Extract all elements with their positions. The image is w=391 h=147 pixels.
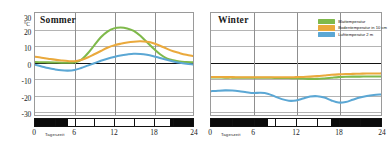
legend-swatch-orange (318, 25, 335, 30)
strip-tick-15 (134, 119, 135, 126)
panel-title-sommer: Sommer (40, 15, 76, 25)
y-tick-0: 0 (27, 62, 31, 70)
x-tick-18: 18 (150, 129, 158, 137)
strip-tick-9 (275, 119, 276, 126)
y-tick-minus20: -20 (22, 95, 31, 103)
strip-tick-18 (339, 119, 340, 126)
daynight-segment-night (35, 119, 68, 126)
x-tick-12: 12 (110, 129, 118, 137)
x-tick-6: 6 (72, 129, 76, 137)
y-tick-10: 10 (24, 45, 31, 53)
daynight-segment-day (268, 119, 332, 126)
strip-tick-15 (317, 119, 318, 126)
y-axis-labels: 30 °C 20 10 0 -10 -20 -30 (0, 0, 33, 147)
y-axis-unit: °C (24, 22, 30, 28)
daynight-strip-sommer (34, 118, 194, 127)
strip-tick-3 (232, 119, 233, 126)
strip-tick-12 (114, 119, 115, 126)
panel-sommer: 30 °C 20 10 0 -10 -20 -30 Sommer 0 Tages… (0, 0, 196, 147)
plot-area-sommer (34, 12, 194, 116)
x-axis-title-winter: Tageszeit (221, 132, 241, 137)
legend-label-lufttemperatur: Lufttemperatur 2 m (338, 32, 373, 37)
x-axis-title-sommer: Tageszeit (45, 132, 65, 137)
y-tick-20: 20 (24, 29, 31, 37)
strip-tick-21 (360, 119, 361, 126)
legend-swatch-blue (318, 32, 335, 37)
legend: Blattemperatur Bodentemperatur in 10 cm … (318, 19, 387, 37)
x-axis-labels-sommer: 0 Tageszeit 6 12 18 24 (34, 129, 194, 143)
legend-item-lufttemperatur[interactable]: Lufttemperatur 2 m (318, 32, 387, 37)
temperature-figure: 30 °C 20 10 0 -10 -20 -30 Sommer 0 Tages… (0, 0, 391, 147)
legend-item-bodentemperatur[interactable]: Bodentemperatur in 10 cm (318, 25, 387, 30)
x-axis-labels-winter: 0 Tageszeit 6 12 18 24 (210, 129, 382, 143)
y-tick-minus30: -30 (22, 111, 31, 119)
panel-winter: Winter Blattemperatur Bodentemperatur in… (196, 0, 391, 147)
series-lines-sommer (35, 13, 193, 115)
x-tick-24: 24 (378, 129, 386, 137)
legend-label-bodentemperatur: Bodentemperatur in 10 cm (338, 25, 387, 30)
strip-tick-6 (75, 119, 76, 126)
strip-tick-9 (94, 119, 95, 126)
legend-item-blattemperatur[interactable]: Blattemperatur (318, 19, 387, 24)
x-tick-12: 12 (292, 129, 300, 137)
strip-tick-12 (296, 119, 297, 126)
legend-label-blattemperatur: Blattemperatur (338, 19, 365, 24)
daynight-segment-night (211, 119, 268, 126)
x-tick-6: 6 (251, 129, 255, 137)
legend-swatch-green (318, 19, 335, 24)
strip-tick-6 (254, 119, 255, 126)
daynight-segment-day (68, 119, 170, 126)
x-tick-0: 0 (208, 129, 212, 137)
y-tick-minus10: -10 (22, 78, 31, 86)
x-tick-0: 0 (32, 129, 36, 137)
panel-title-winter: Winter (218, 15, 249, 25)
strip-tick-21 (173, 119, 174, 126)
series-lufttemperatur-m (211, 90, 381, 102)
strip-tick-3 (55, 119, 56, 126)
daynight-strip-winter (210, 118, 382, 127)
x-tick-18: 18 (335, 129, 343, 137)
strip-tick-18 (154, 119, 155, 126)
